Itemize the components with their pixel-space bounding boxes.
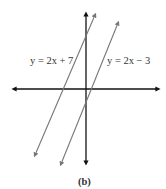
equation-label-line-2: y = 2x − 3 bbox=[107, 56, 150, 67]
figure-caption: (b) bbox=[78, 177, 91, 188]
coordinate-plane-diagram bbox=[0, 0, 166, 189]
equation-label-line-1: y = 2x + 7 bbox=[30, 56, 73, 67]
line-y-equals-2x-minus-3 bbox=[61, 23, 118, 164]
